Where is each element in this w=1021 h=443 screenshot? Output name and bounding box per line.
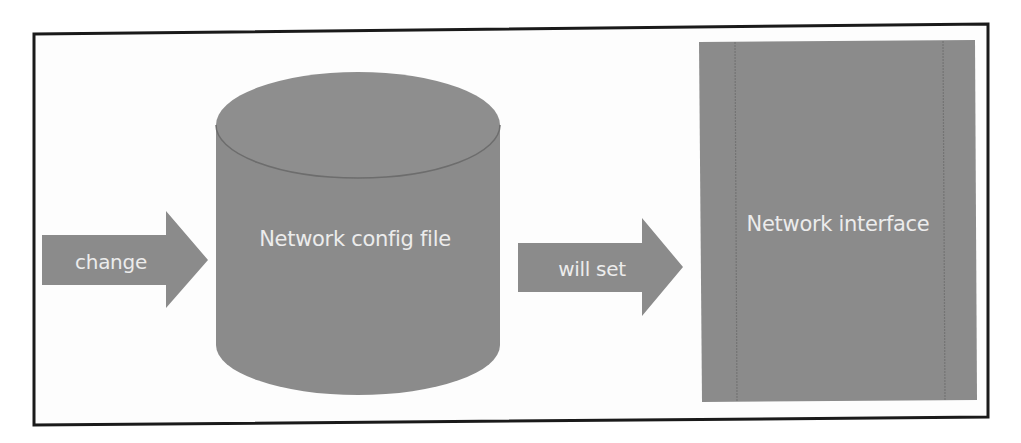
config-file-label: Network config file (259, 229, 451, 250)
will-set-arrow-label: will set (558, 259, 626, 279)
network-interface-label: Network interface (747, 214, 930, 235)
change-arrow-label: change (75, 252, 147, 272)
diagram-canvas: change Network config file will set Netw… (0, 0, 1021, 443)
